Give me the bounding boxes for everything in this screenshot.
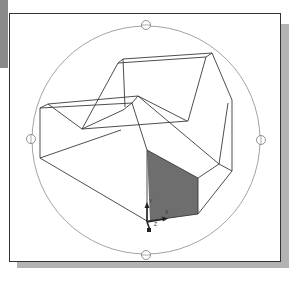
ucs-z-label: Z (154, 221, 157, 227)
orbit-canvas[interactable]: Y X Z (0, 0, 299, 283)
shaded-face (147, 150, 198, 221)
arcball[interactable] (27, 21, 266, 260)
wireframe-model (40, 53, 232, 221)
